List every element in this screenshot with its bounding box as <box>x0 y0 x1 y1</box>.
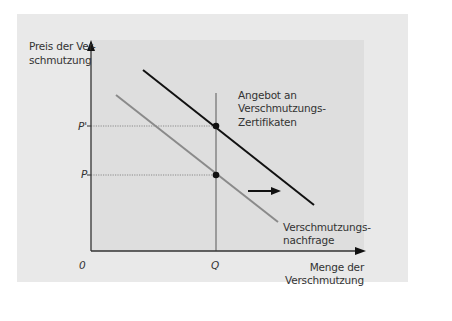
shift-arrow-icon <box>271 187 281 195</box>
y-axis-label-line2: schmutzung <box>29 54 91 67</box>
x-axis-label-line2: Verschmutzung <box>270 274 364 287</box>
y-axis-label-line1: Preis der Ver- <box>29 40 96 53</box>
demand-label-line2: nachfrage <box>283 234 334 247</box>
supply-label-line2: Verschmutzungs- <box>238 102 326 115</box>
p-prime-label: P' <box>78 120 87 133</box>
equilibrium-point-new <box>213 123 220 130</box>
x-axis-arrow-icon <box>355 247 366 255</box>
x-axis-label-line1: Menge der <box>300 261 364 274</box>
p-label: P <box>81 168 87 181</box>
origin-label: 0 <box>79 259 85 272</box>
demand-label-line1: Verschmutzungs- <box>283 221 371 234</box>
supply-label-line3: Zertifikaten <box>238 116 297 129</box>
q-label: Q <box>211 259 219 272</box>
diagram-figure: Preis der Ver- schmutzung P' P 0 Q Angeb… <box>0 0 452 321</box>
supply-label-line1: Angebot an <box>238 89 297 102</box>
equilibrium-point-old <box>213 172 220 179</box>
